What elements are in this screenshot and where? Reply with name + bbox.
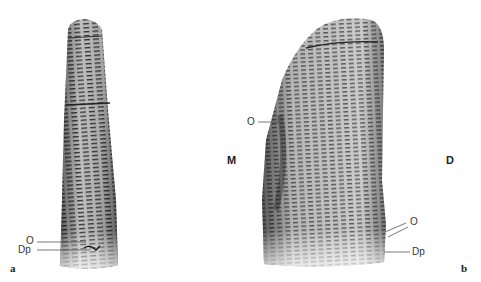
label-distal: D	[446, 155, 454, 166]
label-dentin-pulp-a: Dp	[18, 245, 31, 255]
label-opening-left-b: O	[247, 117, 255, 127]
label-dentin-pulp-b: Dp	[412, 247, 425, 257]
label-opening-right-b: O	[410, 217, 418, 227]
label-mesial: M	[227, 155, 236, 166]
figure-canvas	[0, 0, 481, 282]
panel-letter-b: b	[461, 262, 467, 274]
leader-line-o-right-b-2	[388, 227, 408, 237]
panel-letter-a: a	[10, 262, 16, 274]
root-scan-b	[262, 18, 386, 266]
leader-line-o-right-b-1	[385, 223, 406, 232]
root-scan-a	[60, 19, 118, 269]
